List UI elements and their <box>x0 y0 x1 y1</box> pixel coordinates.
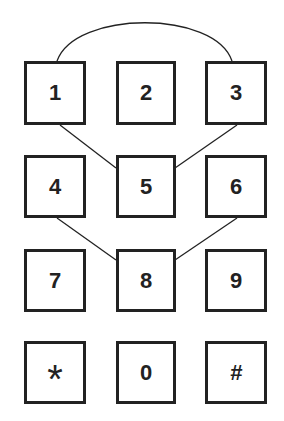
key-8[interactable]: 8 <box>116 249 176 312</box>
key-9[interactable]: 9 <box>205 249 267 312</box>
key-0[interactable]: 0 <box>116 341 176 404</box>
key-label: 0 <box>140 362 152 384</box>
key-label: 8 <box>140 270 152 292</box>
key-label: 7 <box>49 270 61 292</box>
key-label: 4 <box>49 176 61 198</box>
key-5[interactable]: 5 <box>116 155 176 218</box>
key-star[interactable]: * <box>24 341 86 404</box>
arc-1-to-3 <box>57 23 232 61</box>
key-label: * <box>47 359 63 399</box>
key-2[interactable]: 2 <box>116 61 176 125</box>
key-label: 6 <box>230 176 242 198</box>
key-label: 5 <box>140 176 152 198</box>
key-1[interactable]: 1 <box>24 61 86 125</box>
key-label: 1 <box>49 82 61 104</box>
key-3[interactable]: 3 <box>205 61 267 125</box>
key-hash[interactable]: # <box>205 341 267 404</box>
key-label: 3 <box>230 82 242 104</box>
key-6[interactable]: 6 <box>205 155 267 218</box>
key-label: 9 <box>230 270 242 292</box>
key-label: # <box>230 362 242 384</box>
key-7[interactable]: 7 <box>24 249 86 312</box>
key-label: 2 <box>140 82 152 104</box>
key-4[interactable]: 4 <box>24 155 86 218</box>
